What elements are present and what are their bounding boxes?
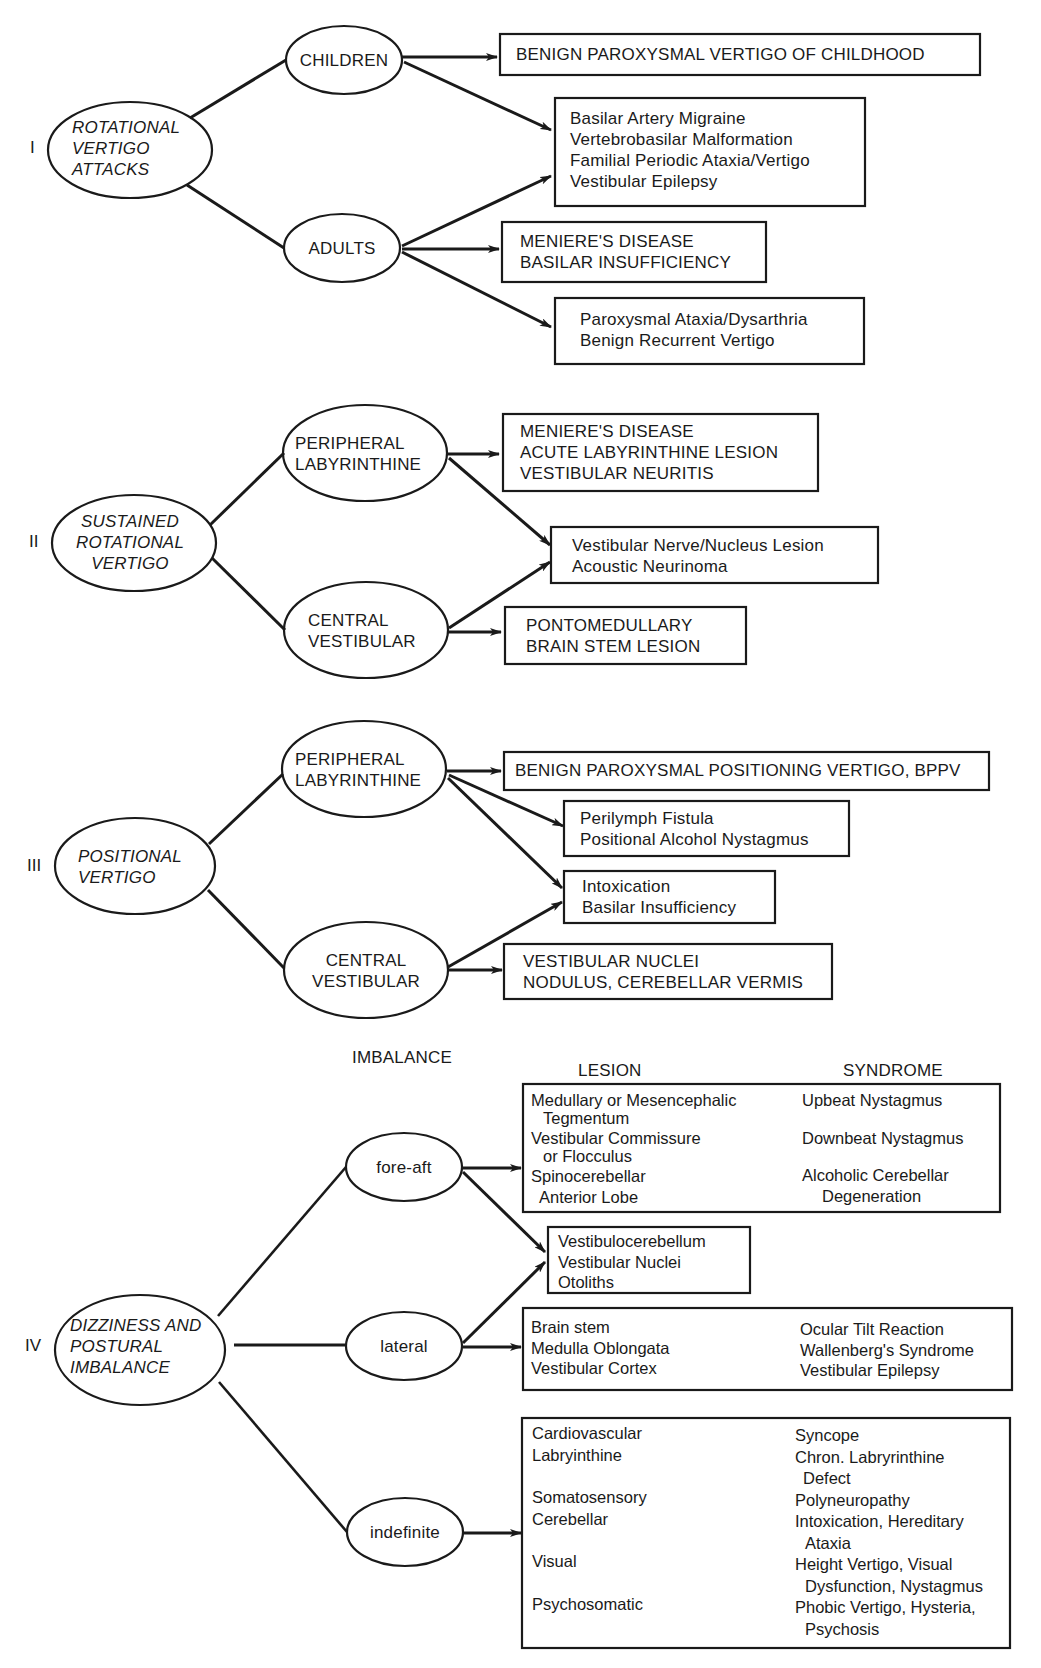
column-header-lesion: LESION <box>578 1060 642 1081</box>
section-numeral-i: I <box>30 138 35 158</box>
section-numeral-iii: III <box>27 856 41 876</box>
outcome-box-perilymph-fistula: Perilymph Fistula Positional Alcohol Nys… <box>580 808 809 850</box>
fore-aft-syndrome-column: Upbeat Nystagmus Downbeat Nystagmus Alco… <box>802 1090 963 1206</box>
outcome-box-vestibular-nerve: Vestibular Nerve/Nucleus Lesion Acoustic… <box>572 535 824 577</box>
column-header-imbalance: IMBALANCE <box>352 1047 452 1068</box>
lateral-lesion-column: Brain stem Medulla Oblongata Vestibular … <box>531 1317 670 1379</box>
outcome-box-pontomedullary: PONTOMEDULLARY BRAIN STEM LESION <box>526 615 700 657</box>
outcome-box-paroxysmal-ataxia: Paroxysmal Ataxia/Dysarthria Benign Recu… <box>580 309 808 351</box>
outcome-box-vestibular-nuclei: VESTIBULAR NUCLEI NODULUS, CEREBELLAR VE… <box>523 951 803 993</box>
outcome-box-basilar-migraine: Basilar Artery Migraine Vertebrobasilar … <box>570 108 810 192</box>
section-numeral-iv: IV <box>25 1336 41 1356</box>
indefinite-syndrome-column: Syncope Chron. Labryrinthine Defect Poly… <box>795 1425 983 1640</box>
outcome-box-menieres-basilar: MENIERE'S DISEASE BASILAR INSUFFICIENCY <box>520 231 731 273</box>
outcome-box-bpv-childhood: BENIGN PAROXYSMAL VERTIGO OF CHILDHOOD <box>516 44 925 65</box>
section-numeral-ii: II <box>29 532 38 552</box>
branch-label-adults: ADULTS <box>308 238 375 259</box>
branch-label-central-vestibular-3: CENTRAL VESTIBULAR <box>312 950 420 992</box>
root-label-iii: POSITIONAL VERTIGO <box>78 846 182 888</box>
outcome-box-vestibulocerebellum: Vestibulocerebellum Vestibular Nuclei Ot… <box>558 1231 706 1293</box>
indefinite-lesion-column: Cardiovascular Labryinthine Somatosensor… <box>532 1423 647 1615</box>
branch-label-lateral: lateral <box>380 1336 428 1357</box>
branch-label-indefinite: indefinite <box>370 1522 440 1543</box>
branch-label-children: CHILDREN <box>300 50 389 71</box>
branch-label-central-vestibular-2: CENTRAL VESTIBULAR <box>308 610 416 652</box>
fore-aft-lesion-column: Medullary or Mesencephalic Tegmentum Ves… <box>531 1090 736 1207</box>
root-label-i: ROTATIONAL VERTIGO ATTACKS <box>72 117 180 180</box>
column-header-syndrome: SYNDROME <box>843 1060 943 1081</box>
outcome-box-bppv: BENIGN PAROXYSMAL POSITIONING VERTIGO, B… <box>515 760 961 781</box>
outcome-box-menieres-acute-neuritis: MENIERE'S DISEASE ACUTE LABYRINTHINE LES… <box>520 421 778 484</box>
lateral-syndrome-column: Ocular Tilt Reaction Wallenberg's Syndro… <box>800 1319 974 1381</box>
outcome-box-intoxication: Intoxication Basilar Insufficiency <box>582 876 736 918</box>
branch-label-fore-aft: fore-aft <box>376 1157 431 1178</box>
branch-label-peripheral-labyrinthine-2: PERIPHERAL LABYRINTHINE <box>295 433 421 475</box>
branch-label-peripheral-labyrinthine-3: PERIPHERAL LABYRINTHINE <box>295 749 421 791</box>
root-label-iv: DIZZINESS AND POSTURAL IMBALANCE <box>70 1315 201 1378</box>
root-label-ii: SUSTAINED ROTATIONAL VERTIGO <box>76 511 184 574</box>
